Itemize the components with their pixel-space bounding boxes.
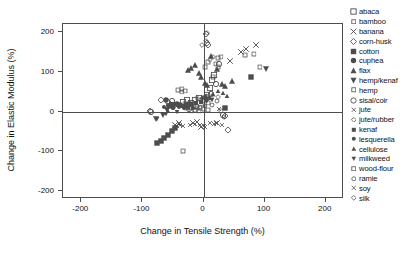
- data-point: [210, 74, 216, 80]
- legend-item-wood-flour[interactable]: wood-flour: [348, 164, 414, 174]
- data-point: [206, 59, 212, 65]
- y-tick-label: 0: [0, 106, 54, 115]
- legend-item-banana[interactable]: banana: [348, 27, 414, 37]
- y-tick-label: -200: [0, 186, 54, 195]
- legend-item-lesquerella[interactable]: lesquerella: [348, 134, 414, 144]
- data-point: [204, 91, 211, 98]
- x-tick-mark: [80, 198, 81, 202]
- legend-item-bamboo[interactable]: bamboo: [348, 17, 414, 27]
- legend-item-label: abaca: [359, 7, 379, 16]
- data-point: [184, 67, 191, 74]
- legend-item-silk[interactable]: silk: [348, 193, 414, 203]
- x-zero-reference-line: [204, 24, 205, 197]
- data-point: [215, 88, 221, 94]
- legend-item-milkweed[interactable]: milkweed: [348, 154, 414, 164]
- data-point: [195, 94, 202, 101]
- legend-item-cellulose[interactable]: cellulose: [348, 144, 414, 154]
- data-point: [220, 90, 226, 96]
- data-point: [194, 118, 201, 125]
- data-point: [186, 102, 192, 108]
- data-point: [262, 66, 269, 73]
- y-zero-reference-line: [63, 112, 342, 113]
- legend-item-cuphea[interactable]: cuphea: [348, 56, 414, 66]
- data-point: [222, 113, 229, 120]
- legend-item-label: lesquerella: [359, 135, 395, 144]
- legend-item-ramie[interactable]: ramie: [348, 174, 414, 184]
- data-point: [187, 122, 193, 128]
- data-point: [212, 81, 219, 88]
- data-point: [195, 95, 201, 101]
- data-point: [191, 97, 198, 104]
- data-point: [207, 91, 214, 98]
- legend-item-label: hemp/kenaf: [359, 76, 398, 85]
- data-point: [180, 103, 186, 109]
- data-point: [168, 101, 174, 107]
- legend-item-label: flax: [359, 66, 370, 75]
- data-point: [176, 120, 183, 127]
- legend-item-soy[interactable]: soy: [348, 183, 414, 193]
- data-point: [242, 52, 248, 58]
- legend-item-sisal-coir[interactable]: sisal/coir: [348, 95, 414, 105]
- filled-triangle-down-small-icon: [348, 154, 359, 164]
- legend-item-label: sisal/coir: [359, 96, 388, 105]
- data-point: [182, 102, 189, 109]
- legend-item-label: cuphea: [359, 56, 383, 65]
- y-tick-label: 100: [0, 66, 54, 75]
- data-point: [210, 91, 216, 97]
- data-point: [179, 86, 185, 92]
- data-point: [181, 148, 187, 154]
- legend-item-hemp-kenaf[interactable]: hemp/kenaf: [348, 76, 414, 86]
- data-point: [182, 101, 188, 107]
- data-point: [185, 106, 191, 112]
- data-point: [182, 106, 188, 112]
- legend-item-label: cellulose: [359, 145, 388, 154]
- cross-x-icon: [348, 27, 359, 37]
- x-tick-label: 0: [200, 204, 204, 213]
- data-point: [221, 114, 227, 120]
- legend-item-kenaf[interactable]: kenaf: [348, 125, 414, 135]
- data-point: [218, 80, 225, 87]
- data-point: [172, 122, 179, 129]
- data-point: [213, 121, 219, 127]
- data-point: [191, 104, 197, 110]
- data-point: [201, 79, 208, 86]
- legend-item-label: bamboo: [359, 17, 386, 26]
- data-point: [204, 40, 211, 47]
- legend-item-jute[interactable]: jute: [348, 105, 414, 115]
- legend-item-abaca[interactable]: abaca: [348, 7, 414, 17]
- x-tick-mark: [141, 198, 142, 202]
- data-point: [193, 102, 200, 109]
- open-square-small-icon: [348, 85, 359, 95]
- legend-item-label: ramie: [359, 174, 378, 183]
- legend-item-flax[interactable]: flax: [348, 66, 414, 76]
- data-point: [176, 121, 182, 127]
- open-circle-small-icon: [348, 174, 359, 184]
- legend-item-hemp[interactable]: hemp: [348, 85, 414, 95]
- data-point: [207, 95, 213, 101]
- filled-circle-icon: [348, 56, 359, 66]
- legend-item-cotton[interactable]: cotton: [348, 46, 414, 56]
- filled-circle-small-icon: [348, 134, 359, 144]
- data-point: [168, 127, 175, 134]
- legend-item-jute-rubber[interactable]: jute/rubber: [348, 115, 414, 125]
- data-point: [188, 101, 194, 107]
- data-point: [207, 57, 213, 63]
- data-point: [179, 89, 185, 95]
- data-point: [192, 121, 198, 127]
- data-point: [181, 105, 187, 111]
- data-point: [215, 55, 221, 61]
- filled-triangle-up-small-icon: [348, 144, 359, 154]
- x-axis-title: Change in Tensile Strength (%): [62, 226, 343, 236]
- data-point: [213, 120, 220, 127]
- legend-item-corn-husk[interactable]: corn-husk: [348, 36, 414, 46]
- legend-item-label: jute: [359, 105, 371, 114]
- y-tick-label: 200: [0, 26, 54, 35]
- data-point: [165, 102, 171, 108]
- data-point: [209, 102, 215, 108]
- data-point: [172, 125, 179, 132]
- x-tick-label: -100: [133, 204, 149, 213]
- legend-item-label: cotton: [359, 47, 379, 56]
- data-point: [214, 98, 220, 104]
- data-point: [165, 98, 172, 105]
- data-point: [161, 134, 168, 141]
